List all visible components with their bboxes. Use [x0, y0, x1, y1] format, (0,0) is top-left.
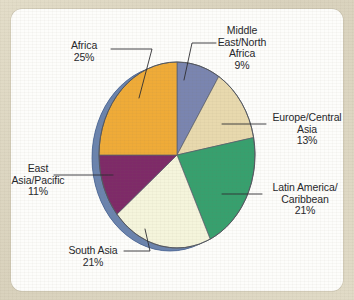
label-africa: Africa 25% — [56, 40, 112, 63]
label-europe: Europe/Central Asia 13% — [266, 112, 348, 147]
label-middle-east: Middle East/North Africa 9% — [205, 25, 279, 71]
label-east-asia: East Asia/Pacific 11% — [0, 163, 78, 198]
pie-chart-svg — [0, 0, 354, 300]
label-south-asia: South Asia 21% — [62, 245, 124, 268]
label-europe-percent: 13% — [266, 135, 348, 147]
label-latin-america-percent: 21% — [262, 205, 348, 217]
chart-scene: Africa 25% Middle East/North Africa 9% E… — [0, 0, 354, 300]
label-latin-america-line1: Latin America/ — [262, 182, 348, 194]
label-east-asia-percent: 11% — [0, 186, 78, 198]
label-middle-east-percent: 9% — [205, 60, 279, 72]
label-europe-line1: Europe/Central — [266, 112, 348, 124]
pie-slice-africa[interactable] — [99, 62, 177, 155]
label-middle-east-line1: Middle — [205, 25, 279, 37]
label-south-asia-percent: 21% — [62, 257, 124, 269]
label-africa-percent: 25% — [56, 52, 112, 64]
label-east-asia-line1: East — [0, 163, 78, 175]
label-latin-america: Latin America/ Caribbean 21% — [262, 182, 348, 217]
label-africa-name: Africa — [56, 40, 112, 52]
label-south-asia-name: South Asia — [62, 245, 124, 257]
pie-chart: Africa 25% Middle East/North Africa 9% E… — [0, 0, 354, 300]
